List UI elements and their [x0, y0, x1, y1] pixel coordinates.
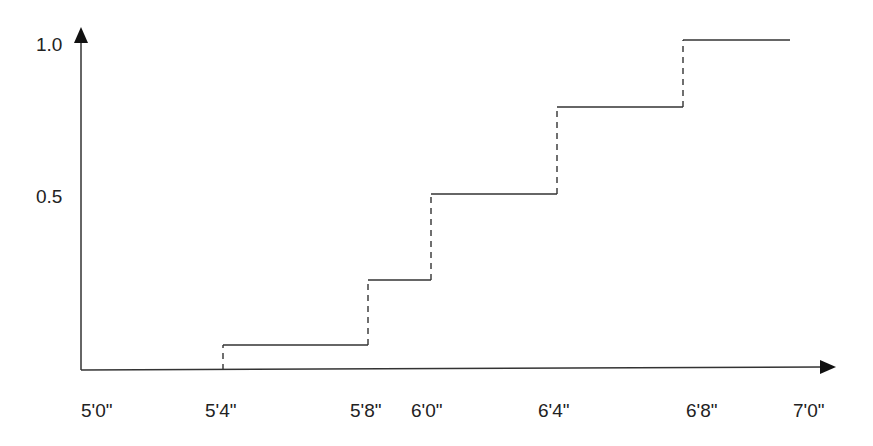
- x-tick-label: 6'8": [686, 401, 718, 420]
- step-chart: [0, 0, 873, 446]
- x-tick-label: 5'0": [81, 401, 113, 420]
- y-tick-label-0.5: 0.5: [36, 187, 62, 206]
- x-tick-label: 6'4": [538, 401, 570, 420]
- x-axis: [81, 367, 822, 370]
- x-tick-label: 5'4": [205, 401, 237, 420]
- x-tick-label: 5'8": [350, 401, 382, 420]
- x-axis-arrow-icon: [820, 360, 836, 374]
- y-tick-label-1.0: 1.0: [36, 35, 62, 54]
- step-series: [223, 40, 790, 370]
- x-tick-label: 7'0": [793, 401, 825, 420]
- y-axis-arrow-icon: [74, 27, 88, 43]
- x-tick-label: 6'0": [411, 401, 443, 420]
